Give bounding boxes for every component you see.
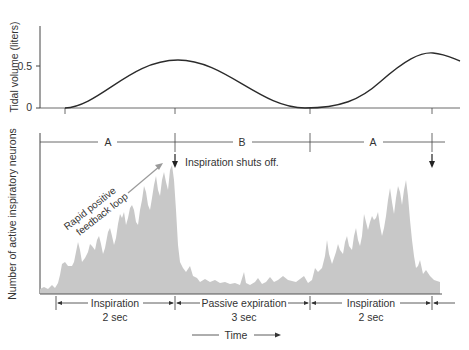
segment-3-duration: 2 sec xyxy=(358,311,383,323)
lower-y-label: Number of active inspiratory neurons xyxy=(6,128,18,300)
tidal-volume-plot xyxy=(36,26,460,114)
upper-tick-0-5: 0.5 xyxy=(17,60,32,72)
phase-label-b: B xyxy=(238,136,245,148)
phase-label-a2: A xyxy=(369,136,376,148)
segment-3-label: Inspiration xyxy=(347,297,396,309)
segment-1-duration: 2 sec xyxy=(102,311,127,323)
time-axis-label: Time xyxy=(225,329,248,341)
activity-area xyxy=(40,165,440,294)
segment-1-label: Inspiration xyxy=(91,297,140,309)
shutoff-annotation: Inspiration shuts off. xyxy=(185,156,279,168)
upper-tick-0: 0 xyxy=(26,101,32,113)
segment-2-label: Passive expiration xyxy=(201,297,286,309)
segment-2-duration: 3 sec xyxy=(231,311,256,323)
phase-label-a1: A xyxy=(104,136,111,148)
tidal-volume-curve xyxy=(65,53,460,108)
respiration-diagram: Tidal volume (liters) 0.5 0 Number of ac… xyxy=(0,0,469,350)
